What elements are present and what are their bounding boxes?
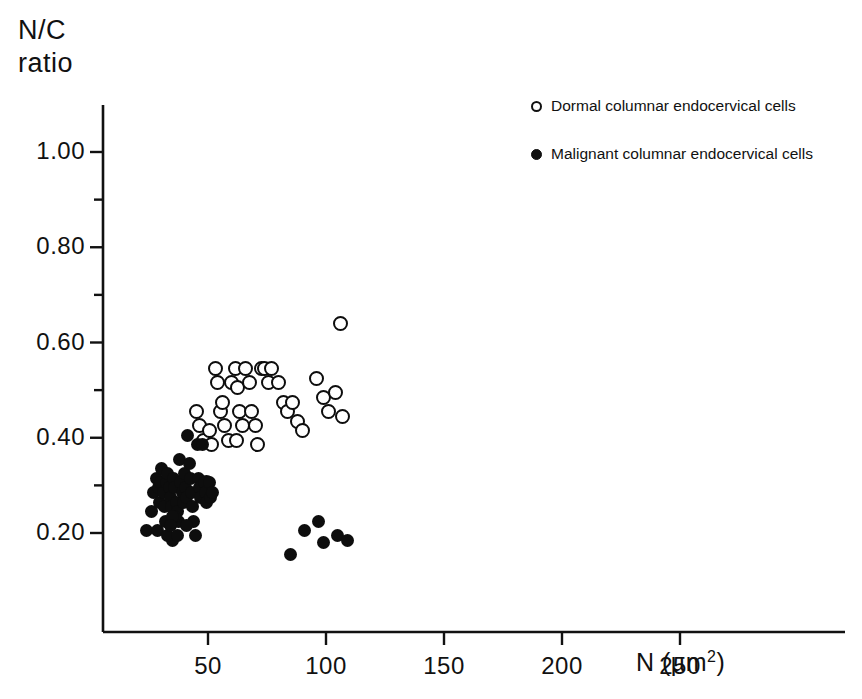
x-axis-title-base: N (µm [636, 648, 707, 676]
data-point-normal [244, 404, 259, 419]
data-point-normal [217, 418, 232, 433]
data-point-normal [215, 395, 230, 410]
y-axis-title-line1: N/C [18, 15, 66, 45]
data-point-normal [271, 375, 286, 390]
data-point-normal [242, 375, 257, 390]
legend-label-normal: Dormal columnar endocervical cells [551, 97, 796, 115]
y-axis-title-line2: ratio [18, 48, 73, 78]
data-point-normal [321, 404, 336, 419]
data-point-normal [250, 437, 265, 452]
data-point-normal [210, 375, 225, 390]
scatter-plot-figure: N/Cratio 0.200.400.600.801.00 5010015020… [0, 0, 862, 699]
y-tick-label: 0.40 [36, 423, 85, 451]
data-point-malignant [341, 534, 354, 547]
data-point-malignant [298, 524, 311, 537]
data-point-normal [264, 361, 279, 376]
data-point-malignant [317, 536, 330, 549]
y-tick-label: 0.60 [36, 328, 85, 356]
x-tick-label: 100 [286, 652, 366, 680]
data-point-normal [208, 361, 223, 376]
data-point-normal [248, 418, 263, 433]
x-tick-label: 50 [168, 652, 248, 680]
tick-marks [90, 152, 680, 645]
data-point-malignant [312, 515, 325, 528]
y-tick-label: 1.00 [36, 137, 85, 165]
filled-circle-icon [531, 149, 542, 160]
x-axis-title: N (µm2) [636, 648, 725, 677]
data-point-normal [295, 423, 310, 438]
y-tick-label: 0.80 [36, 232, 85, 260]
x-axis-title-close: ) [716, 648, 725, 676]
data-point-normal [189, 404, 204, 419]
data-point-normal [285, 395, 300, 410]
data-point-malignant [284, 548, 297, 561]
data-point-normal [335, 409, 350, 424]
data-point-malignant [183, 457, 196, 470]
x-tick-label: 150 [404, 652, 484, 680]
data-point-normal [333, 316, 348, 331]
legend-label-malignant: Malignant columnar endocervical cells [551, 145, 813, 163]
y-axis-title: N/Cratio [18, 14, 73, 80]
data-point-malignant [189, 529, 202, 542]
data-point-normal [238, 361, 253, 376]
data-point-malignant [206, 486, 219, 499]
legend-item-malignant: Malignant columnar endocervical cells [531, 145, 813, 163]
data-point-normal [202, 423, 217, 438]
data-point-normal [229, 433, 244, 448]
data-point-malignant [164, 519, 177, 532]
x-tick-label: 200 [522, 652, 602, 680]
legend-item-normal: Dormal columnar endocervical cells [531, 97, 796, 115]
y-tick-label: 0.20 [36, 518, 85, 546]
data-point-malignant [196, 438, 209, 451]
data-point-normal [328, 385, 343, 400]
data-point-normal [309, 371, 324, 386]
open-circle-icon [531, 101, 542, 112]
